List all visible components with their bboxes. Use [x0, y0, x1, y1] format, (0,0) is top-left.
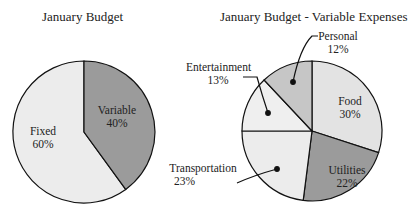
label-variable: Variable 40%: [97, 104, 137, 130]
label-name: Personal: [316, 30, 360, 43]
chart-title-variable-expenses: January Budget - Variable Expenses: [220, 9, 407, 25]
label-pct: 13%: [186, 74, 250, 87]
chart-title-january-budget: January Budget: [42, 9, 123, 25]
label-name: Entertainment: [186, 61, 250, 74]
label-name: Transportation: [168, 162, 238, 175]
label-fixed: Fixed 60%: [28, 125, 58, 151]
label-pct: 30%: [330, 108, 370, 121]
label-name: Fixed: [28, 125, 58, 138]
label-pct: 12%: [316, 43, 360, 56]
label-utilities: Utilities 22%: [325, 164, 369, 190]
label-personal: Personal 12%: [316, 30, 360, 56]
label-food: Food 30%: [330, 95, 370, 121]
label-pct: 22%: [325, 177, 369, 190]
label-pct: 60%: [28, 138, 58, 151]
label-entertainment: Entertainment 13%: [186, 61, 250, 87]
label-name: Variable: [97, 104, 137, 117]
slice-transportation: [242, 131, 312, 200]
label-name: Utilities: [325, 164, 369, 177]
label-transportation: Transportation 23%: [168, 162, 238, 188]
label-name: Food: [330, 95, 370, 108]
label-pct: 40%: [97, 117, 137, 130]
label-pct: 23%: [168, 175, 238, 188]
